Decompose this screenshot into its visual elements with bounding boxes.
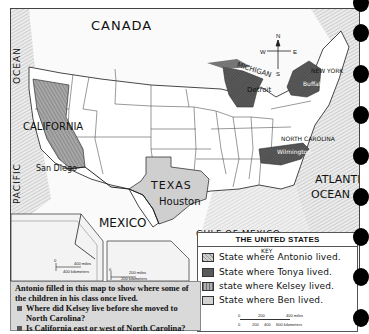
binder-hole	[353, 268, 369, 286]
binder-hole	[353, 228, 369, 246]
map-legend: THE UNITED STATES KEY State where Antoni…	[197, 232, 358, 332]
scale-km-400: 400	[264, 322, 271, 327]
label-canada: CANADA	[91, 19, 152, 32]
binder-hole	[353, 147, 369, 165]
legend-label-ben: State where Ben lived.	[219, 295, 323, 305]
scale-mi-200: 200	[258, 313, 265, 318]
legend-scale-bar	[240, 319, 290, 320]
hawaii-scale-zero: 0	[109, 267, 111, 272]
hawaii-scale-miles: 200 miles	[129, 270, 146, 275]
scale-km-0: 0	[238, 322, 240, 327]
caption-intro: Antonio filled in this map to show where…	[15, 284, 196, 304]
compass-s: S	[276, 71, 280, 77]
binder-hole	[353, 24, 369, 42]
scale-mi-0: 0	[238, 313, 240, 318]
label-houston: Houston	[159, 197, 201, 207]
swatch-antonio	[202, 253, 214, 262]
label-new-york: NEW YORK	[311, 68, 343, 74]
label-buffalo: Buffalo	[303, 81, 324, 87]
legend-title: THE UNITED STATES	[198, 235, 357, 244]
legend-divider	[198, 246, 357, 247]
binder-hole	[353, 188, 369, 206]
hawaii-inset	[107, 241, 189, 281]
swatch-ben	[202, 296, 214, 305]
swatch-kelsey	[202, 282, 214, 291]
legend-item-antonio: State where Antonio lived.	[202, 251, 341, 263]
alaska-scale-km: 400 kilometers	[63, 269, 89, 274]
caption-box: Antonio filled in this map to show where…	[10, 281, 201, 331]
question-2: Is California east or west of North Caro…	[15, 324, 196, 334]
label-detroit: Detroit	[247, 87, 271, 94]
binder-hole	[353, 0, 369, 12]
legend-item-tonya: State where Tonya lived.	[202, 266, 332, 278]
label-atlantic-ocean: OCEAN	[311, 189, 350, 200]
scale-mi-400: 400 miles	[286, 313, 303, 318]
binder-hole	[353, 106, 369, 124]
alaska-inset	[11, 214, 103, 281]
compass-rose-icon	[267, 40, 291, 69]
legend-label-tonya: State where Tonya lived.	[219, 267, 332, 277]
label-pacific: PACIFIC	[13, 163, 22, 204]
alaska-scale-miles: 400 miles	[74, 261, 91, 266]
binder-hole	[353, 309, 369, 327]
compass-w: W	[260, 49, 266, 55]
label-california: CALIFORNIA	[23, 122, 83, 132]
label-mexico: MEXICO	[99, 217, 147, 229]
legend-label-kelsey: state where Kelsey lived.	[219, 281, 334, 291]
legend-item-kelsey: state where Kelsey lived.	[202, 280, 334, 292]
question-1-text: Where did Kelsey live before she moved t…	[26, 304, 196, 324]
legend-item-ben: State where Ben lived.	[202, 294, 323, 306]
alaska-scale-zero: 0	[54, 258, 56, 263]
binder-hole	[353, 65, 369, 83]
question-1: Where did Kelsey live before she moved t…	[15, 304, 196, 324]
question-2-text: Is California east or west of North Caro…	[26, 324, 186, 334]
label-wilmington: Wilmington	[277, 149, 311, 155]
compass-e: E	[293, 49, 297, 55]
compass-n: N	[276, 33, 280, 39]
scale-km-200: 200	[252, 322, 259, 327]
bullet-icon	[17, 326, 22, 331]
label-atlantic: ATLANTIC	[315, 174, 360, 185]
legend-label-antonio: State where Antonio lived.	[219, 252, 341, 262]
label-texas: TEXAS	[151, 180, 192, 191]
label-ocean-pacific: OCEAN	[13, 47, 22, 84]
label-san-diego: San Diego	[36, 165, 77, 173]
bullet-icon	[17, 306, 22, 311]
label-north-carolina: NORTH CAROLINA	[281, 136, 335, 142]
scale-km-600: 600 kilometers	[276, 322, 302, 327]
swatch-tonya	[202, 268, 214, 277]
